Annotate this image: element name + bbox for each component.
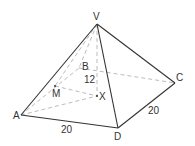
measure-DC: 20 [148, 105, 160, 116]
edge-VD [97, 24, 118, 128]
label-A: A [13, 110, 20, 121]
point-X [96, 95, 98, 97]
label-X: X [99, 91, 106, 102]
label-M: M [52, 88, 60, 99]
edge-DC [118, 83, 175, 128]
measure-AD: 20 [61, 124, 73, 135]
label-D: D [114, 131, 121, 142]
edge-VC [97, 24, 175, 83]
pyramid-diagram: V A B C D X M 20 20 12 [0, 0, 195, 146]
label-C: C [176, 72, 183, 83]
point-M [54, 85, 56, 87]
label-V: V [93, 11, 100, 22]
label-B: B [82, 61, 89, 72]
segment-MX [55, 86, 97, 96]
measure-VX: 12 [84, 74, 96, 85]
